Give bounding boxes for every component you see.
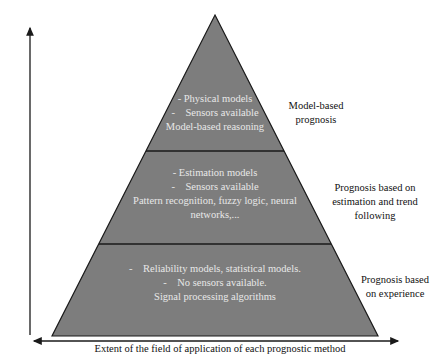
tier-2-side-line-3: following xyxy=(315,209,435,223)
tier-1-line-1: - Physical models xyxy=(160,92,270,106)
tier-2-side-line-1: Prognosis based on xyxy=(315,181,435,195)
tier-2-line-3: Pattern recognition, fuzzy logic, neural xyxy=(110,194,320,208)
tier-2-side-label: Prognosis based on estimation and trend … xyxy=(315,181,435,223)
tier-3-line-3: Signal processing algorithms xyxy=(100,290,330,304)
tier-2-line-2: - Sensors available xyxy=(110,180,320,194)
x-axis-label: Extent of the field of application of ea… xyxy=(0,343,440,354)
tier-3-line-2: - No sensors available. xyxy=(100,276,330,290)
tier-2-side-line-2: estimation and trend xyxy=(315,195,435,209)
tier-2-text: - Estimation models - Sensors available … xyxy=(110,166,320,222)
tier-1-line-2: - Sensors available xyxy=(160,106,270,120)
tier-3-side-line-1: Prognosis based xyxy=(352,273,438,287)
tier-3-text: - Reliability models, statistical models… xyxy=(100,262,330,304)
tier-1-side-line-1: Model-based xyxy=(268,99,364,113)
tier-3-side-line-2: on experience xyxy=(352,287,438,301)
tier-2-line-4: networks,... xyxy=(110,208,320,222)
tier-3-side-label: Prognosis based on experience xyxy=(352,273,438,301)
tier-1-line-3: Model-based reasoning xyxy=(160,120,270,134)
tier-1-side-label: Model-based prognosis xyxy=(268,99,364,127)
tier-1-text: - Physical models - Sensors available Mo… xyxy=(160,92,270,134)
tier-1-side-line-2: prognosis xyxy=(268,113,364,127)
tier-3-line-1: - Reliability models, statistical models… xyxy=(100,262,330,276)
tier-2-line-1: - Estimation models xyxy=(110,166,320,180)
